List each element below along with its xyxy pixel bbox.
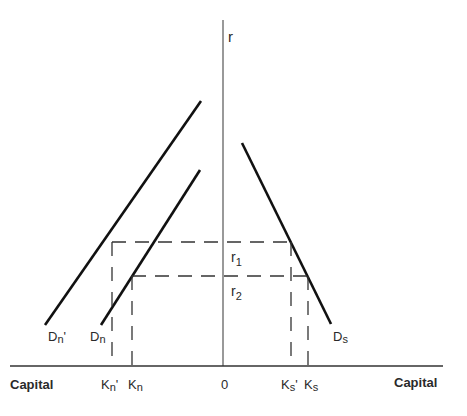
curve-dn (101, 170, 200, 325)
curve-label-dn: Dn (90, 329, 106, 345)
curve-label-dn-prime: Dn' (48, 329, 66, 345)
x-axis-label-right: Capital (394, 375, 437, 390)
curve-label-ds: Ds (333, 329, 348, 345)
tick-label-ks-prime: Ks' (281, 377, 298, 393)
tick-label-ks: Ks (304, 377, 319, 393)
tick-label-kn: Kn (128, 377, 143, 393)
origin-label: 0 (221, 377, 228, 392)
rate-label-r1: r1 (231, 249, 242, 268)
curve-ds (242, 143, 331, 324)
y-axis-label: r (228, 28, 233, 45)
x-axis-label-left: Capital (10, 377, 53, 392)
capital-market-diagram: r Capital Capital 0 r1 r2 Dn' Dn Ds Kn' … (0, 0, 467, 416)
tick-label-kn-prime: Kn' (101, 377, 118, 393)
rate-label-r2: r2 (231, 283, 242, 302)
